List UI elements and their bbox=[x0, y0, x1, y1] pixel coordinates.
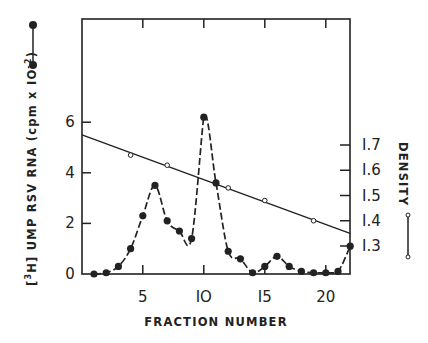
right-legend-marker bbox=[406, 213, 410, 259]
svg-text:DENSITY: DENSITY bbox=[396, 142, 410, 206]
rna-point bbox=[151, 182, 158, 189]
rna-point bbox=[127, 245, 134, 252]
rna-point bbox=[249, 269, 256, 276]
density-point bbox=[226, 186, 231, 191]
rna-point bbox=[225, 248, 232, 255]
rna-point bbox=[322, 269, 329, 276]
rna-point bbox=[90, 270, 97, 277]
y2-tick-label: I.4 bbox=[362, 212, 381, 230]
x-axis-title: FRACTION NUMBER bbox=[144, 315, 287, 329]
y-tick-label: 4 bbox=[65, 164, 75, 182]
chart: 5IOI5200246I.3I.4I.5I.6I.7 FRACTION NUMB… bbox=[0, 0, 428, 343]
axis-ticks bbox=[82, 19, 350, 274]
rna-point bbox=[261, 263, 268, 270]
rna-point bbox=[176, 227, 183, 234]
rna-series bbox=[90, 114, 353, 278]
y-axis-title: [3H] UMP RSV RNA (cpm x IO-2) bbox=[24, 51, 39, 286]
rna-point bbox=[298, 268, 305, 275]
rna-point bbox=[200, 114, 207, 121]
y-tick-label: 6 bbox=[65, 113, 75, 131]
density-point bbox=[263, 198, 268, 203]
rna-point bbox=[188, 235, 195, 242]
x-tick-label: I5 bbox=[258, 288, 272, 306]
rna-point bbox=[310, 269, 317, 276]
rna-point bbox=[286, 263, 293, 270]
rna-point bbox=[237, 255, 244, 262]
x-tick-label: 20 bbox=[316, 288, 335, 306]
rna-point bbox=[115, 263, 122, 270]
svg-text:[3H] UMP RSV RNA (cpm x IO-2): [3H] UMP RSV RNA (cpm x IO-2) bbox=[24, 51, 39, 286]
density-point bbox=[128, 153, 133, 158]
y2-tick-label: I.3 bbox=[362, 237, 381, 255]
y2-tick-label: I.6 bbox=[362, 161, 381, 179]
density-point bbox=[311, 218, 316, 223]
y-tick-label: 0 bbox=[65, 265, 75, 283]
rna-point bbox=[139, 212, 146, 219]
plot-frame bbox=[82, 19, 350, 274]
density-point bbox=[165, 163, 170, 168]
rna-point bbox=[212, 179, 219, 186]
x-tick-label: IO bbox=[196, 288, 212, 306]
x-tick-label: 5 bbox=[138, 288, 148, 306]
y2-axis-title: DENSITY bbox=[396, 142, 410, 206]
rna-point bbox=[334, 268, 341, 275]
rna-point bbox=[347, 243, 354, 250]
axis-labels: 5IOI5200246I.3I.4I.5I.6I.7 bbox=[65, 113, 381, 306]
rna-point bbox=[103, 269, 110, 276]
y2-tick-label: I.5 bbox=[362, 187, 381, 205]
rna-point bbox=[164, 217, 171, 224]
y2-tick-label: I.7 bbox=[362, 136, 381, 154]
rna-point bbox=[273, 253, 280, 260]
y-tick-label: 2 bbox=[65, 214, 75, 232]
